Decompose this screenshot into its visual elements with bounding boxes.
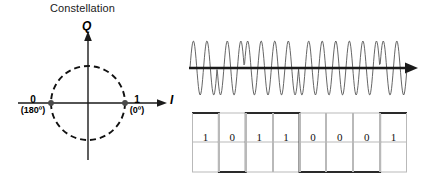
constellation-bit-zero: 0 [9,95,57,106]
bit-cell: 1 [380,113,407,172]
bit-value: 0 [301,131,326,143]
bit-cell: 1 [192,113,219,172]
bit-value: 1 [247,131,272,143]
modulated-carrier-panel [189,41,418,95]
bit-cell: 1 [273,113,300,172]
bit-cell: 0 [353,113,380,172]
bit-cell: 0 [326,113,353,172]
bit-value: 1 [193,131,218,143]
q-axis-label: Q [82,19,91,33]
constellation-phase-zero: (180º) [9,106,57,115]
bit-cell: 0 [219,113,246,172]
bit-cell: 0 [300,113,327,172]
bit-cell: 1 [246,113,273,172]
page-title: Constellation [50,2,115,14]
constellation-label-one: 1 (0º) [120,95,154,115]
constellation-phase-one: (0º) [120,106,154,115]
bit-value: 0 [220,131,245,143]
bit-value: 0 [354,131,379,143]
bit-value: 0 [327,131,352,143]
constellation-bit-one: 1 [120,95,154,106]
bit-grid: 10110001 [192,113,407,172]
i-axis-label: I [170,93,173,107]
bit-value: 1 [381,131,406,143]
constellation-label-zero: 0 (180º) [9,95,57,115]
bit-value: 1 [274,131,299,143]
